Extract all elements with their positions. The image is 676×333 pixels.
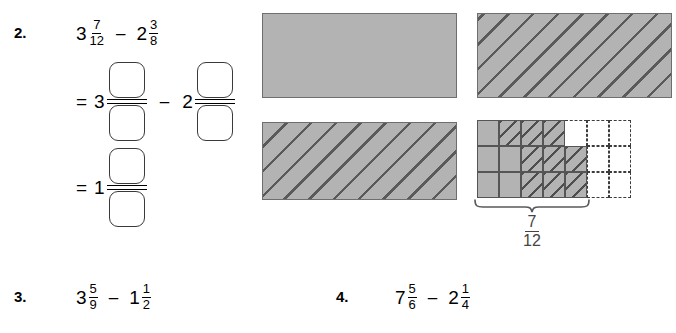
answer-box-denominator-2[interactable] xyxy=(197,105,233,141)
problem-3-expression: 3 5 9 – 1 1 2 xyxy=(76,282,151,312)
work-line-1-left-whole: 3 xyxy=(94,91,105,113)
grid-brace xyxy=(473,199,591,213)
problem-4-left-denominator: 6 xyxy=(408,298,417,313)
grid-cell-empty xyxy=(587,120,609,146)
grid-cell-shaded xyxy=(499,146,521,172)
problem-2-operator: – xyxy=(116,25,125,42)
grid-cell-empty xyxy=(587,146,609,172)
answer-box-numerator-2[interactable] xyxy=(197,62,233,98)
problem-4-right-numerator: 1 xyxy=(461,282,470,298)
problem-3-right-denominator: 2 xyxy=(142,298,151,313)
problem-2-expression: 3 7 12 – 2 3 8 xyxy=(76,18,158,48)
work-line-1-right-fraction xyxy=(195,62,235,141)
problem-2-left-fraction: 7 12 xyxy=(89,18,105,48)
grid-cell-shaded xyxy=(477,146,499,172)
work-line-2-left-whole: 1 xyxy=(94,177,105,199)
grid-cell-shaded xyxy=(543,172,565,198)
answer-box-denominator-3[interactable] xyxy=(109,191,145,227)
problem-4-number: 4. xyxy=(336,288,348,305)
work-line-1-right-whole: 2 xyxy=(182,91,193,113)
problem-2-right-denominator: 8 xyxy=(149,34,158,49)
problem-4-left-whole: 7 xyxy=(395,288,406,307)
problem-2-right-fraction: 3 8 xyxy=(149,18,158,48)
grid-fraction-label: 7 12 xyxy=(473,213,591,251)
grid-cell-empty xyxy=(565,120,587,146)
grid-cell-shaded xyxy=(565,172,587,198)
problem-2-left-numerator: 7 xyxy=(92,18,101,34)
work-line-2-fraction xyxy=(107,148,147,227)
grid-cell-shaded xyxy=(565,146,587,172)
grid-cell-shaded xyxy=(477,172,499,198)
grid-label-numerator: 7 xyxy=(525,213,540,232)
brace-icon xyxy=(473,199,591,213)
problem-3-right-whole: 1 xyxy=(129,288,140,307)
diagram-rect-top-right xyxy=(477,13,672,98)
grid-label-fraction: 7 12 xyxy=(520,213,544,251)
problem-2-right-whole: 2 xyxy=(137,24,148,43)
diagram-rect-top-left xyxy=(262,13,457,98)
grid-cell-empty xyxy=(609,172,631,198)
grid-cell-shaded xyxy=(543,120,565,146)
grid-cell-shaded xyxy=(477,120,499,146)
answer-box-denominator-1[interactable] xyxy=(109,105,145,141)
problem-4-operator: – xyxy=(428,289,437,306)
fraction-bar xyxy=(107,185,147,190)
grid-cell-shaded xyxy=(521,172,543,198)
problem-4-right-fraction: 1 4 xyxy=(461,282,470,312)
grid-cell-empty xyxy=(609,146,631,172)
grid-label-denominator: 12 xyxy=(520,232,544,250)
problem-2-work-line-2: = 1 xyxy=(76,148,147,227)
problem-3-right-numerator: 1 xyxy=(142,282,151,298)
work-line-1-left-fraction xyxy=(107,62,147,141)
diagram-twelfths-grid xyxy=(477,120,652,200)
problem-3-operator: – xyxy=(109,289,118,306)
answer-box-numerator-3[interactable] xyxy=(109,148,145,184)
grid-cell-shaded xyxy=(521,120,543,146)
answer-box-numerator-1[interactable] xyxy=(109,62,145,98)
problem-3-left-fraction: 5 9 xyxy=(89,282,98,312)
problem-3-left-numerator: 5 xyxy=(89,282,98,298)
problem-2-left-whole: 3 xyxy=(76,24,87,43)
diagram-rect-bottom-left xyxy=(262,122,457,200)
problem-4-right-whole: 2 xyxy=(448,288,459,307)
problem-4-left-numerator: 5 xyxy=(408,282,417,298)
grid-cell-empty xyxy=(609,120,631,146)
grid-cell-shaded xyxy=(543,146,565,172)
grid-cell-shaded xyxy=(499,120,521,146)
grid-cell-shaded xyxy=(499,172,521,198)
grid-cell-shaded xyxy=(521,146,543,172)
problem-2-work-line-1: = 3 – 2 xyxy=(76,62,235,141)
problem-4-left-fraction: 5 6 xyxy=(408,282,417,312)
grid-cell-empty xyxy=(587,172,609,198)
problem-4-expression: 7 5 6 – 2 1 4 xyxy=(395,282,470,312)
work-line-2-equals: = xyxy=(76,177,87,199)
problem-4-right-denominator: 4 xyxy=(461,298,470,313)
problem-2-right-numerator: 3 xyxy=(149,18,158,34)
problem-3-number: 3. xyxy=(14,288,26,305)
fraction-bar xyxy=(107,99,147,104)
problem-3-right-fraction: 1 2 xyxy=(142,282,151,312)
fraction-bar xyxy=(195,99,235,104)
problem-3-left-denominator: 9 xyxy=(89,298,98,313)
problem-2-left-denominator: 12 xyxy=(89,34,105,49)
problem-3-left-whole: 3 xyxy=(76,288,87,307)
problem-2-number: 2. xyxy=(14,24,26,41)
work-line-1-operator: – xyxy=(160,92,169,112)
work-line-1-equals: = xyxy=(76,91,87,113)
